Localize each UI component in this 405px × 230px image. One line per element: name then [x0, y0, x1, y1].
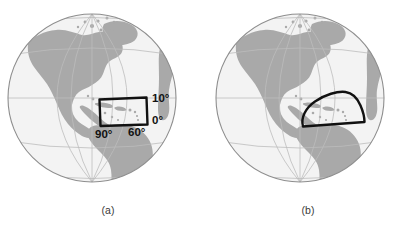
- panel-b-caption: (b): [302, 204, 315, 216]
- longitude-west-label: 90°: [95, 128, 113, 140]
- latitude-top-label: 10°: [152, 92, 170, 104]
- panel-a: 10° 0° 60° 90° (a): [8, 14, 177, 216]
- latitude-bottom-label: 0°: [152, 114, 163, 126]
- two-globe-figure: 10° 0° 60° 90° (a): [0, 0, 405, 230]
- panel-a-caption: (a): [102, 204, 115, 216]
- figure-root: 10° 0° 60° 90° (a): [0, 0, 405, 230]
- panel-b: (b): [216, 14, 385, 216]
- longitude-east-label: 60°: [128, 126, 146, 138]
